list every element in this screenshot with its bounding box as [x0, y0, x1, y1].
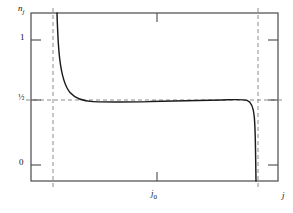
- figure-container: nj j j0 1 ½ 0: [0, 0, 293, 213]
- y-tick-label-zero: 0: [19, 158, 24, 167]
- y-tick-label-half: ½: [18, 93, 25, 102]
- y-axis-label-subscript: j: [23, 8, 25, 16]
- x-tick-label-j0: j0: [151, 189, 157, 201]
- y-axis-label: nj: [18, 4, 24, 16]
- x-axis-label-symbol: j: [282, 190, 285, 200]
- x-tick-label-subscript: 0: [154, 193, 158, 201]
- curve-occupation-number: [57, 13, 256, 181]
- y-tick-label-half-glyph: ½: [18, 93, 24, 101]
- plot-frame: [31, 13, 278, 181]
- plot-canvas: [0, 0, 293, 213]
- y-tick-label-one: 1: [20, 33, 25, 42]
- x-axis-label: j: [282, 191, 285, 200]
